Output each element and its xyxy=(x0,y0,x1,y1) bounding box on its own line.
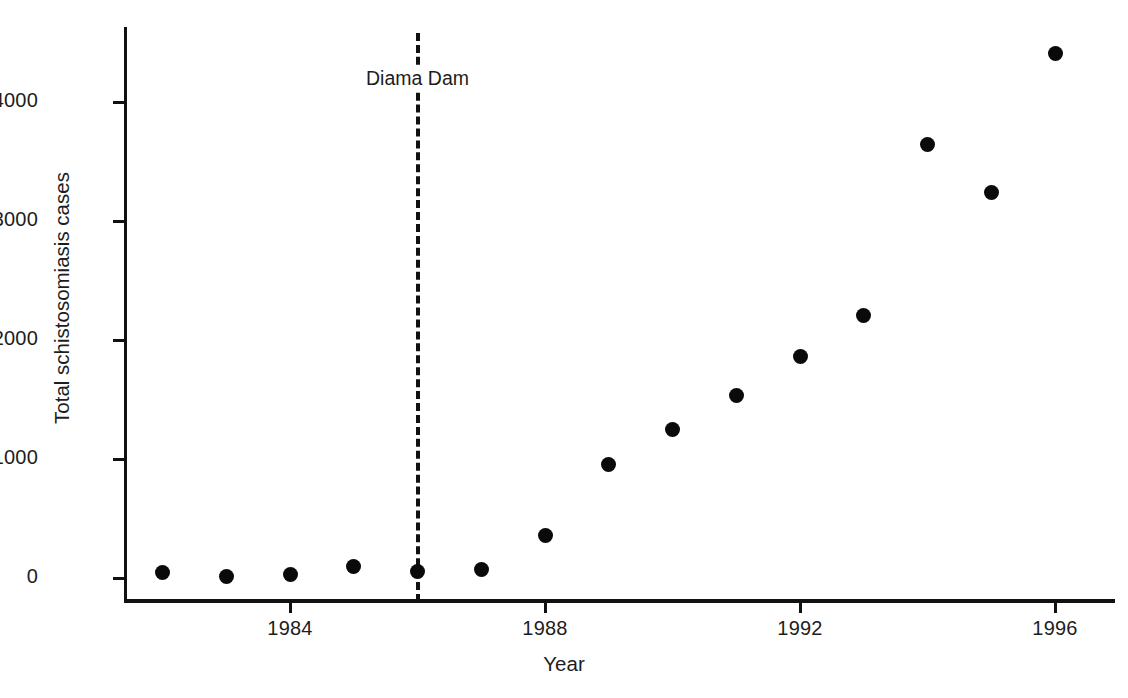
data-point xyxy=(283,567,298,582)
data-point xyxy=(346,559,361,574)
data-point xyxy=(729,388,744,403)
scatter-plot-figure: 01000200030004000 1984198819921996 Total… xyxy=(0,0,1128,698)
data-point xyxy=(1048,46,1063,61)
x-axis-tick-mark xyxy=(799,602,802,613)
y-axis-tick-label: 3000 xyxy=(0,208,38,231)
y-axis-tick-mark xyxy=(113,458,125,461)
y-axis-tick-mark xyxy=(113,577,125,580)
data-point xyxy=(793,349,808,364)
y-axis-tick-mark xyxy=(113,339,125,342)
data-point xyxy=(410,564,425,579)
data-point xyxy=(219,569,234,584)
x-axis-tick-mark xyxy=(289,602,292,613)
x-axis-line xyxy=(124,599,1115,603)
y-axis-tick-mark xyxy=(113,101,125,104)
x-axis-tick-mark xyxy=(544,602,547,613)
data-point xyxy=(538,528,553,543)
y-axis-tick-mark xyxy=(113,220,125,223)
data-point xyxy=(984,185,999,200)
data-point xyxy=(601,457,616,472)
y-axis-tick-label: 0 xyxy=(27,565,38,588)
y-axis-tick-label: 2000 xyxy=(0,327,38,350)
data-point xyxy=(856,308,871,323)
x-axis-tick-label: 1996 xyxy=(1010,617,1100,640)
y-axis-tick-label: 1000 xyxy=(0,446,38,469)
data-point xyxy=(474,562,489,577)
x-axis-tick-label: 1992 xyxy=(755,617,845,640)
y-axis-line xyxy=(124,27,127,603)
y-axis-title: Total schistosomiasis cases xyxy=(50,88,74,508)
y-axis-tick-label: 4000 xyxy=(0,89,38,112)
x-axis-title: Year xyxy=(0,652,1128,676)
data-point xyxy=(155,565,170,580)
diama-dam-reference-line xyxy=(416,33,420,602)
diama-dam-label: Diama Dam xyxy=(365,67,470,90)
data-point xyxy=(920,137,935,152)
x-axis-tick-label: 1984 xyxy=(245,617,335,640)
x-axis-tick-mark xyxy=(1054,602,1057,613)
data-point xyxy=(665,422,680,437)
x-axis-tick-label: 1988 xyxy=(500,617,590,640)
